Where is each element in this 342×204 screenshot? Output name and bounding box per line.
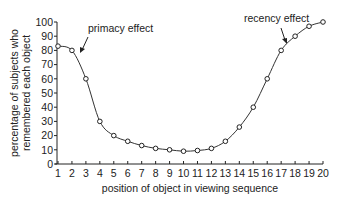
data-point-marker <box>209 146 214 151</box>
x-tick-label: 2 <box>69 167 75 179</box>
x-tick-label: 17 <box>275 167 287 179</box>
x-tick-label: 11 <box>192 167 203 179</box>
x-tick-label: 7 <box>139 167 145 179</box>
x-tick-label: 12 <box>206 167 218 179</box>
data-point-marker <box>98 119 103 124</box>
data-point-marker <box>223 139 228 144</box>
data-point-marker <box>153 146 158 151</box>
data-point-marker <box>181 149 186 154</box>
x-tick-label: 14 <box>233 167 245 179</box>
x-tick-label: 5 <box>111 167 117 179</box>
data-point-marker <box>279 48 284 53</box>
data-point-marker <box>125 139 130 144</box>
x-tick-label: 9 <box>167 167 173 179</box>
y-tick-label: 10 <box>41 144 53 156</box>
data-point-marker <box>84 77 89 82</box>
data-point-marker <box>293 34 298 39</box>
data-point-marker <box>251 105 256 110</box>
y-tick-label: 50 <box>41 87 53 99</box>
y-tick-label: 0 <box>47 158 53 170</box>
x-tick-label: 3 <box>83 167 89 179</box>
x-tick-label: 4 <box>97 167 103 179</box>
data-point-marker <box>70 48 75 53</box>
serial-position-chart: 0102030405060708090100 12345678910111213… <box>0 0 342 204</box>
y-tick-label: 70 <box>41 58 53 70</box>
recency-arrow <box>281 28 287 44</box>
data-curve <box>58 22 323 151</box>
x-tick-label: 10 <box>178 167 190 179</box>
data-point-marker <box>111 133 116 138</box>
x-tick-label: 6 <box>125 167 131 179</box>
data-point-marker <box>321 20 326 25</box>
recency-effect-label: recency effect <box>244 12 309 24</box>
axes <box>55 22 323 164</box>
y-tick-label: 80 <box>41 44 53 56</box>
x-tick-label: 13 <box>220 167 232 179</box>
y-tick-label: 60 <box>41 73 53 85</box>
x-tick-label: 15 <box>247 167 259 179</box>
data-point-marker <box>307 24 312 29</box>
x-tick-label: 16 <box>261 167 273 179</box>
y-tick-label: 20 <box>41 129 53 141</box>
y-axis-title-line2: remembered each object <box>20 35 32 151</box>
x-axis-title: position of object in viewing sequence <box>102 182 278 194</box>
x-tick-label: 1 <box>55 167 61 179</box>
y-axis-title-line1: percentage of subjects who <box>8 29 20 157</box>
data-point-marker <box>195 148 200 153</box>
y-axis-ticks: 0102030405060708090100 <box>35 16 57 170</box>
y-tick-label: 100 <box>35 16 53 28</box>
y-tick-label: 30 <box>41 115 53 127</box>
data-point-marker <box>56 44 61 49</box>
data-point-marker <box>167 148 172 153</box>
x-tick-label: 8 <box>153 167 159 179</box>
data-point-marker <box>237 125 242 130</box>
y-tick-label: 90 <box>41 30 53 42</box>
data-point-marker <box>139 143 144 148</box>
x-tick-label: 18 <box>289 167 301 179</box>
primacy-arrow <box>80 37 88 53</box>
primacy-effect-label: primacy effect <box>88 22 153 34</box>
x-tick-label: 20 <box>317 167 329 179</box>
y-tick-label: 40 <box>41 101 53 113</box>
data-point-marker <box>265 77 270 82</box>
x-tick-label: 19 <box>303 167 315 179</box>
